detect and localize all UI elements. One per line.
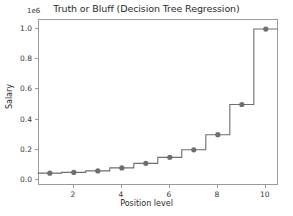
x-tick-label: 2: [70, 190, 75, 199]
x-tick-label: 6: [166, 190, 171, 199]
x-axis-label: Position level: [0, 199, 293, 208]
data-point-marker: [95, 168, 100, 173]
x-tick-label: 4: [118, 190, 123, 199]
y-tick-label: 0.2: [0, 144, 32, 153]
decision-tree-step-line: [38, 29, 278, 173]
x-tick-label: 10: [260, 190, 270, 199]
data-point-marker: [215, 132, 220, 137]
data-point-marker: [71, 170, 76, 175]
chart-title: Truth or Bluff (Decision Tree Regression…: [0, 3, 293, 14]
y-axis-offset-label: 1e6: [27, 7, 40, 15]
data-point-marker: [263, 26, 268, 31]
data-point-marker: [239, 102, 244, 107]
y-tick-label: 0.8: [0, 54, 32, 63]
data-point-marker: [47, 171, 52, 176]
y-tick-label: 1.0: [0, 24, 32, 33]
data-point-markers: [47, 26, 268, 175]
data-point-marker: [191, 147, 196, 152]
plot-svg: [39, 20, 279, 186]
data-point-marker: [119, 165, 124, 170]
chart-figure: Truth or Bluff (Decision Tree Regression…: [0, 0, 293, 216]
y-axis-label: Salary: [5, 71, 14, 123]
data-point-marker: [143, 161, 148, 166]
y-tick-label: 0.0: [0, 174, 32, 183]
x-tick-label: 8: [214, 190, 219, 199]
plot-area: [38, 19, 278, 185]
data-point-marker: [167, 155, 172, 160]
